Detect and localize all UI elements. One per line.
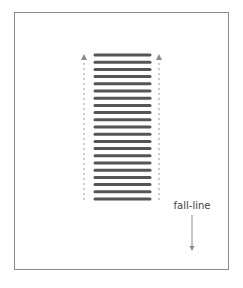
stripe-diagram <box>0 0 243 288</box>
fall-line-arrow <box>190 215 195 251</box>
up-arrow-icon <box>156 54 162 60</box>
up-arrow-icon <box>81 54 87 60</box>
stripes-group <box>95 55 150 199</box>
left-guide <box>81 54 87 202</box>
fall-line-label: fall-line <box>174 200 211 211</box>
down-arrow-icon <box>190 246 195 251</box>
right-guide <box>156 54 162 202</box>
